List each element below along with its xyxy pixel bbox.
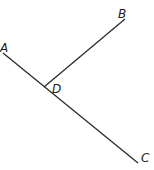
point-label-a: A: [0, 41, 8, 55]
geometry-diagram: A B C D: [0, 0, 154, 170]
point-label-d: D: [52, 82, 61, 96]
segment-ac: [3, 53, 138, 163]
point-label-c: C: [141, 151, 150, 165]
point-label-b: B: [118, 7, 126, 21]
segment-db: [44, 19, 125, 87]
